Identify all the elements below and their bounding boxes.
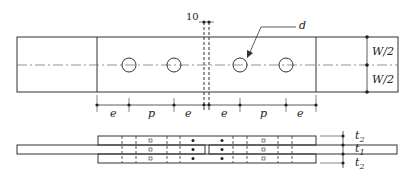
hole-diameter-label: d (299, 19, 306, 32)
splice-joint-diagram: 10 d W/2 W/2 e p e e p e (0, 0, 411, 178)
plate-outline (17, 37, 398, 92)
spacing-label-e3: e (221, 107, 228, 120)
splice-plate-top (98, 136, 316, 145)
top-view (17, 20, 398, 112)
spacing-label-e4: e (297, 107, 304, 120)
width-half-label-bottom: W/2 (372, 73, 394, 86)
spacing-label-e1: e (110, 107, 117, 120)
hole-leader (250, 27, 296, 52)
main-plate-right (209, 145, 397, 154)
gap-label: 10 (186, 11, 199, 22)
main-plate-left (17, 145, 205, 154)
thickness-label-middle: t1 (355, 142, 365, 157)
side-view (17, 131, 397, 168)
width-half-label-top: W/2 (372, 45, 394, 58)
thickness-label-bottom: t2 (355, 156, 365, 171)
splice-plate-bottom (98, 154, 316, 163)
spacing-label-p2: p (260, 107, 267, 120)
spacing-label-e2: e (185, 107, 192, 120)
spacing-label-p1: p (148, 107, 155, 120)
